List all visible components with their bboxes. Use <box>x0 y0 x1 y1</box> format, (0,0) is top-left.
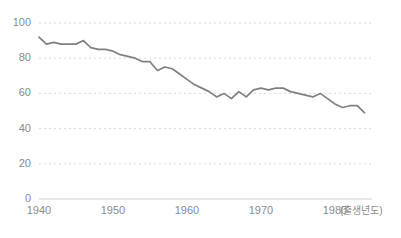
y-axis-tick-label: 0 <box>5 193 31 204</box>
x-axis-tick-label: 1950 <box>93 205 133 216</box>
line-chart: 020406080100 19401950196019701980 (출생년도) <box>0 0 401 238</box>
x-axis-tick-label: 1960 <box>167 205 207 216</box>
gridlines <box>39 23 372 164</box>
data-series-line <box>39 37 365 113</box>
chart-plot-area <box>0 0 401 238</box>
y-axis-tick-label: 60 <box>5 87 31 98</box>
y-axis-tick-label: 80 <box>5 52 31 63</box>
y-axis-tick-label: 40 <box>5 123 31 134</box>
x-axis-tick-label: 1940 <box>19 205 59 216</box>
y-axis-tick-label: 20 <box>5 158 31 169</box>
x-axis-label: (출생년도) <box>340 205 383 216</box>
x-axis-tick-label: 1970 <box>241 205 281 216</box>
y-axis-tick-label: 100 <box>5 17 31 28</box>
